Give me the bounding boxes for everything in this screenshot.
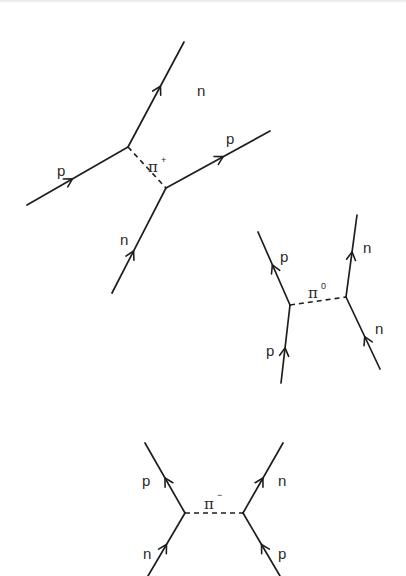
fermion-line-p: p [166, 130, 270, 188]
pion-exchange: π− [185, 490, 243, 513]
particle-label: n [120, 231, 128, 248]
fermion-line-p: p [27, 147, 128, 205]
pion-charge: − [217, 490, 222, 500]
pion-exchange: π+ [128, 147, 166, 188]
fermion-line-n: n [112, 188, 166, 293]
fermion-line-p: p [258, 232, 290, 305]
propagator-line [281, 305, 290, 383]
diagram-pi-plus-exchange: pnnpπ+ [27, 42, 270, 293]
pion-symbol: π [308, 284, 318, 302]
particle-label: n [143, 545, 151, 562]
propagator-line [258, 232, 290, 305]
pion-charge: 0 [321, 281, 326, 291]
feynman-diagrams-canvas: pnnpπ+ppnnπ0nppnπ− [0, 0, 406, 576]
propagator-line [128, 42, 184, 147]
propagator-line [346, 215, 357, 297]
diagram-pi-zero-exchange: ppnnπ0 [258, 215, 383, 383]
fermion-line-p: p [243, 513, 286, 576]
particle-label: p [142, 472, 150, 489]
pion-charge: + [161, 155, 166, 165]
fermion-line-n: n [128, 42, 205, 147]
fermion-line-p: p [142, 443, 185, 513]
particle-label: p [280, 248, 288, 265]
propagator-line [166, 131, 270, 188]
particle-label: n [197, 82, 205, 99]
pion-dashed-line [128, 147, 166, 188]
fermion-line-n: n [143, 513, 185, 576]
particle-label: n [375, 320, 383, 337]
particle-label: p [266, 342, 274, 359]
fermion-line-p: p [266, 305, 290, 383]
fermion-line-n: n [346, 215, 371, 297]
particle-label: p [226, 130, 234, 147]
particle-label: p [278, 545, 286, 562]
diagram-pi-minus-exchange: nppnπ− [142, 443, 286, 576]
particle-label: n [278, 472, 286, 489]
pion-exchange: π0 [290, 281, 346, 305]
fermion-line-n: n [243, 443, 286, 513]
propagator-line [27, 147, 128, 205]
pion-dashed-line [290, 297, 346, 305]
pion-symbol: π [148, 158, 158, 176]
particle-label: p [57, 162, 65, 179]
fermion-line-n: n [346, 297, 383, 369]
particle-label: n [363, 239, 371, 256]
pion-symbol: π [204, 495, 214, 513]
